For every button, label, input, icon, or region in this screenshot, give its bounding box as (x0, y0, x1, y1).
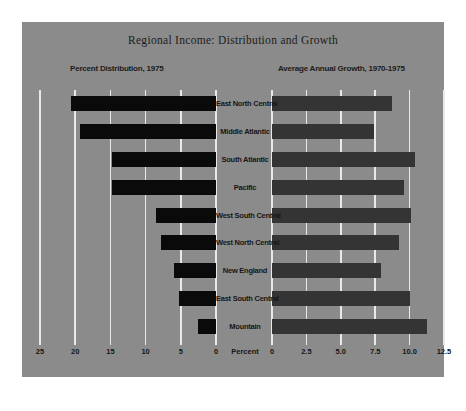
category-label: East North Central (216, 99, 274, 108)
axis-tick-label: 15 (106, 347, 114, 356)
gridline (39, 90, 41, 340)
bar (272, 208, 411, 223)
bar (179, 291, 216, 306)
axis-tick (145, 340, 147, 345)
axis-tick (74, 340, 76, 345)
category-label: New England (216, 266, 274, 275)
axis-tick-label: 5.0 (336, 347, 346, 356)
bar (161, 235, 216, 250)
left-axis-title: Percent (216, 347, 274, 356)
axis-tick (180, 340, 182, 345)
axis-tick-label: 20 (71, 347, 79, 356)
axis-tick-label: 10.0 (402, 347, 417, 356)
left-panel-subtitle: Percent Distribution, 1975 (70, 64, 164, 73)
gridline (74, 90, 76, 340)
axis-tick-label: 25 (36, 347, 44, 356)
axis-tick (306, 340, 308, 345)
chart-title: Regional Income: Distribution and Growth (22, 34, 444, 46)
bar (174, 263, 216, 278)
gridline (443, 90, 445, 340)
category-label: East South Central (216, 294, 274, 303)
chart-panel: Regional Income: Distribution and Growth… (22, 22, 444, 377)
axis-tick-label: 5 (179, 347, 183, 356)
bar (272, 263, 381, 278)
bar (112, 152, 216, 167)
axis-tick (409, 340, 411, 345)
right-plot-area: 02.55.07.510.012.5 (272, 90, 444, 340)
bar (198, 319, 216, 334)
bar (272, 291, 410, 306)
bar (272, 152, 415, 167)
category-label: Mountain (216, 322, 274, 331)
axis-tick (110, 340, 112, 345)
axis-tick (374, 340, 376, 345)
bar (112, 180, 216, 195)
axis-tick-label: 7.5 (370, 347, 380, 356)
axis-tick (39, 340, 41, 345)
axis-tick (443, 340, 445, 345)
category-label: West South Central (216, 211, 274, 220)
axis-tick-label: 12.5 (437, 347, 452, 356)
bar (272, 124, 374, 139)
bar (272, 96, 392, 111)
bar (71, 96, 216, 111)
left-plot-area: 2520151050 (40, 90, 216, 340)
axis-tick-label: 2.5 (301, 347, 311, 356)
category-label: Middle Atlantic (216, 127, 274, 136)
category-label: South Atlantic (216, 155, 274, 164)
bar (272, 180, 404, 195)
axis-tick (271, 340, 273, 345)
axis-tick (340, 340, 342, 345)
category-label: Pacific (216, 183, 274, 192)
category-label: West North Central (216, 238, 274, 247)
axis-tick-label: 10 (141, 347, 149, 356)
bar (80, 124, 216, 139)
category-label-column: East North CentralMiddle AtlanticSouth A… (216, 90, 274, 340)
bar (272, 319, 427, 334)
axis-tick (215, 340, 217, 345)
bar (156, 208, 216, 223)
bar (272, 235, 399, 250)
right-panel-subtitle: Average Annual Growth, 1970-1975 (278, 64, 405, 73)
